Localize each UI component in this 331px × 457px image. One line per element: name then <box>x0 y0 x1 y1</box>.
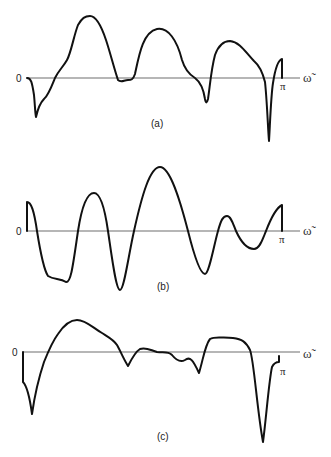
waveform-curve <box>23 320 279 442</box>
omega-axis-label: ω̃ <box>303 346 317 361</box>
waveform-figure: 0 π ω̃ (a) 0 π ω̃ (b) 0 π ω̃ (c) <box>0 0 331 457</box>
waveform-curve <box>27 167 282 290</box>
panel-caption: (c) <box>157 431 169 442</box>
panel-b: 0 π ω̃ (b) <box>16 167 317 292</box>
omega-axis-label: ω̃ <box>303 223 317 238</box>
origin-label: 0 <box>16 226 22 237</box>
panel-c: 0 π ω̃ (c) <box>12 320 317 442</box>
pi-label: π <box>280 365 286 377</box>
pi-label: π <box>280 80 286 92</box>
omega-axis-label: ω̃ <box>303 70 317 85</box>
pi-label: π <box>279 233 285 245</box>
panel-a: 0 π ω̃ (a) <box>16 16 317 141</box>
panel-caption: (b) <box>157 281 169 292</box>
panel-caption: (a) <box>151 118 163 129</box>
origin-label: 0 <box>16 73 22 84</box>
origin-label: 0 <box>12 347 18 358</box>
